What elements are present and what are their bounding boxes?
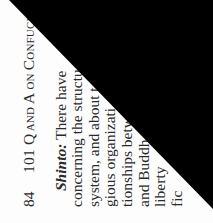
- running-head-c: C: [20, 60, 37, 71]
- running-head-and: AND: [24, 104, 36, 134]
- running-head-line: 84101 Q AND A ON CONFUCI: [21, 0, 38, 207]
- text-line: There have: [52, 71, 69, 144]
- running-head-a: A: [20, 93, 37, 104]
- running-head-number: 101: [20, 149, 37, 173]
- page-number: 84: [21, 173, 38, 207]
- paragraph-lead: Shinto:: [52, 144, 69, 191]
- running-head: 101 Q AND A ON CONFUCI: [20, 18, 37, 173]
- running-head-q: Q: [20, 134, 37, 145]
- running-head-on: ON: [24, 70, 36, 92]
- book-page: 84101 Q AND A ON CONFUCI Shinto: There h…: [0, 0, 213, 223]
